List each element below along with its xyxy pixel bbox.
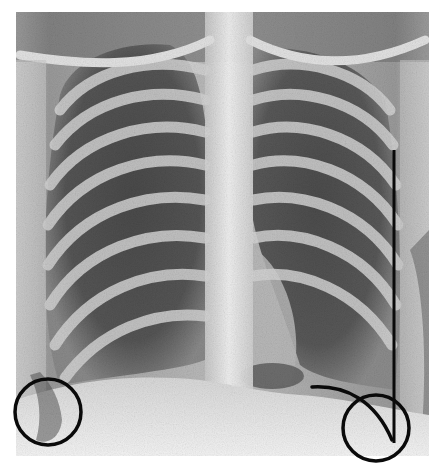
xray-figure bbox=[0, 0, 443, 473]
radiograph-film bbox=[16, 12, 429, 456]
chest-xray-image bbox=[0, 0, 443, 473]
